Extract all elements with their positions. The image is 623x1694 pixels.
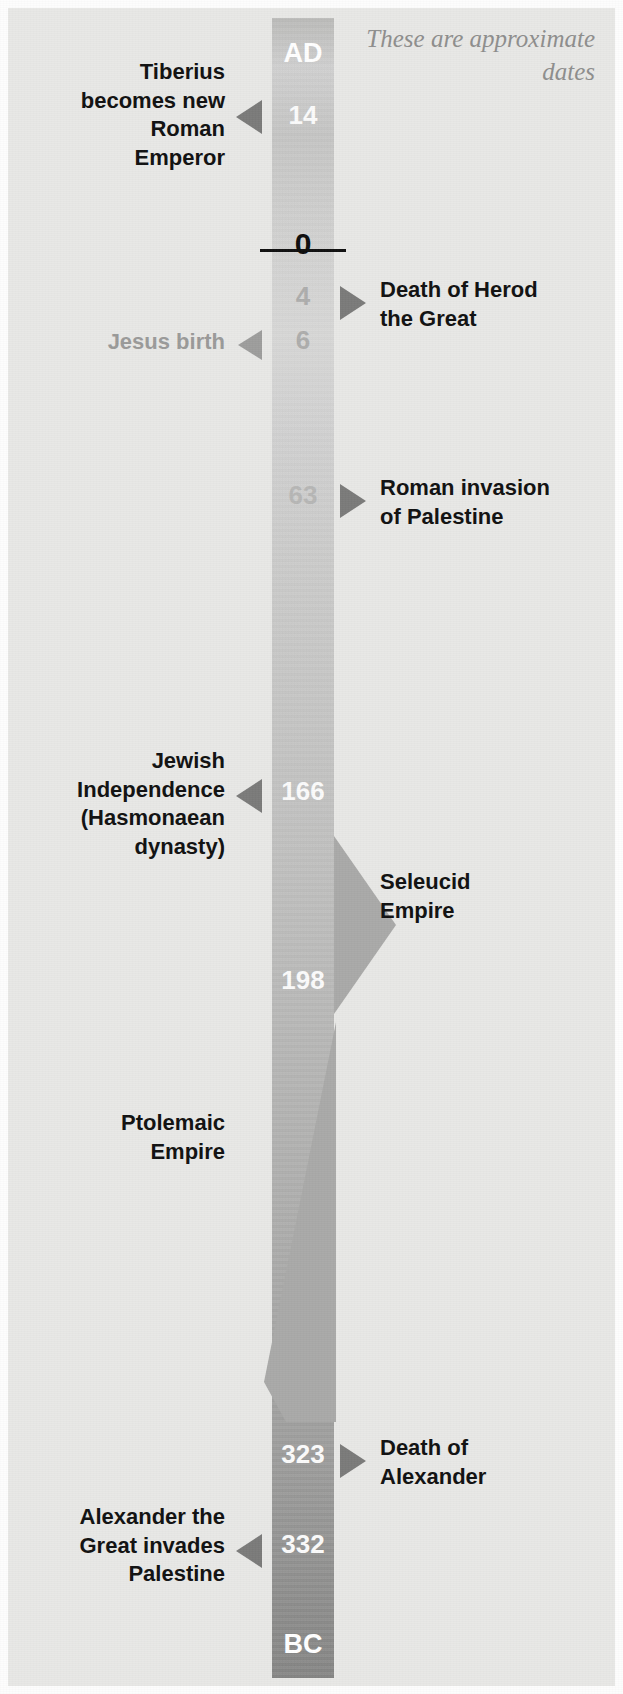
timeline-figure: AD BC 14 4 6 63 166 198 323 332 0 These … (0, 0, 623, 1694)
zero-marker: 0 (260, 232, 346, 268)
caption-seleucid-empire: Seleucid Empire (380, 868, 580, 925)
caption-line: becomes new (40, 87, 225, 116)
caption-line: Jewish (20, 747, 225, 776)
date-4: 4 (272, 283, 334, 309)
date-198: 198 (272, 967, 334, 993)
page-margin-right (615, 0, 623, 1694)
caption-herod-death: Death of Herod the Great (380, 276, 600, 333)
caption-jesus-birth: Jesus birth (40, 328, 225, 357)
caption-line: Great invades (24, 1532, 225, 1561)
date-6: 6 (272, 327, 334, 353)
caption-line: Alexander (380, 1463, 580, 1492)
approximate-dates-note: These are approximate dates (365, 22, 595, 88)
date-323: 323 (272, 1441, 334, 1467)
arrow-right-roman-invasion-icon (340, 484, 366, 518)
caption-alexander-death: Death of Alexander (380, 1434, 580, 1491)
page-margin-left (0, 0, 8, 1694)
caption-line: dynasty) (20, 833, 225, 862)
page-margin-bottom (0, 1686, 623, 1694)
date-63: 63 (272, 482, 334, 508)
caption-line: Seleucid (380, 868, 580, 897)
caption-ptolemaic-empire: Ptolemaic Empire (40, 1109, 225, 1166)
caption-line: the Great (380, 305, 600, 334)
arrow-left-jesus-birth-icon (238, 330, 262, 360)
ptolemaic-empire-wedge (246, 1022, 336, 1422)
era-label-bc: BC (272, 1629, 334, 1660)
caption-line: Roman invasion (380, 474, 610, 503)
caption-line: Ptolemaic (40, 1109, 225, 1138)
caption-line: (Hasmonaean (20, 804, 225, 833)
arrow-left-alexander-invades-icon (236, 1534, 262, 1568)
date-166: 166 (272, 778, 334, 804)
caption-line: Alexander the (24, 1503, 225, 1532)
zero-label: 0 (260, 229, 346, 259)
caption-line: Independence (20, 776, 225, 805)
caption-line: Death of (380, 1434, 580, 1463)
date-14: 14 (272, 102, 334, 128)
caption-line: Empire (380, 897, 580, 926)
caption-line: Emperor (40, 144, 225, 173)
caption-line: Roman (40, 115, 225, 144)
arrow-left-tiberius-icon (236, 100, 262, 134)
caption-line: Jesus birth (40, 328, 225, 357)
caption-roman-invasion: Roman invasion of Palestine (380, 474, 610, 531)
caption-line: of Palestine (380, 503, 610, 532)
caption-alexander-invades: Alexander the Great invades Palestine (24, 1503, 225, 1589)
arrow-left-jewish-independence-icon (236, 779, 262, 813)
arrow-right-alexander-death-icon (340, 1444, 366, 1478)
date-332: 332 (272, 1531, 334, 1557)
caption-line: Empire (40, 1138, 225, 1167)
era-label-ad: AD (272, 38, 334, 69)
page-margin-top (0, 0, 623, 8)
caption-line: Palestine (24, 1560, 225, 1589)
caption-line: Death of Herod (380, 276, 600, 305)
caption-jewish-independence: Jewish Independence (Hasmonaean dynasty) (20, 747, 225, 861)
caption-tiberius: Tiberius becomes new Roman Emperor (40, 58, 225, 172)
arrow-right-herod-icon (340, 286, 366, 320)
caption-line: Tiberius (40, 58, 225, 87)
